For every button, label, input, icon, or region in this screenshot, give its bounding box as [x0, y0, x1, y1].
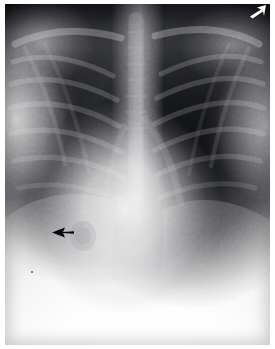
film-artifact-speck: [31, 271, 33, 273]
film-grain-overlay: [5, 4, 270, 345]
mediastinum-spine: [5, 4, 270, 345]
plate-vignette: [5, 4, 270, 345]
right-lung-field: [5, 4, 270, 345]
chest-wall-soft-tissue: [5, 4, 270, 345]
corner-marker-arrow: [248, 4, 268, 20]
xray-plate: [5, 4, 270, 345]
lesion-pointer-arrow: [52, 226, 76, 239]
diaphragm-and-heart-borders: [5, 4, 270, 345]
rib-cage-overlay: [5, 4, 270, 345]
left-lung-field: [5, 4, 270, 345]
cardiac-silhouette: [5, 4, 270, 345]
radiograph-figure: [0, 0, 275, 349]
base-tone-layer: [5, 4, 270, 345]
